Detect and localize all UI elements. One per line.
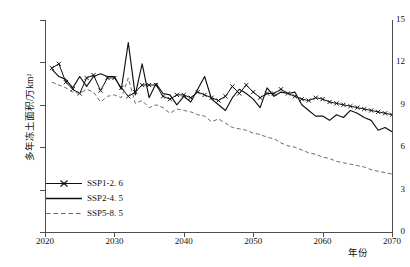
data-point-marker (203, 93, 207, 97)
y-tick-label: 12 (369, 57, 405, 66)
legend-item-ssp5: SSP5-8. 5 (46, 206, 158, 221)
data-point-marker (258, 96, 262, 100)
legend-item-ssp1: SSP1-2. 6 (46, 176, 158, 191)
legend-item-ssp2: SSP2-4. 5 (46, 191, 158, 206)
y-tick-label: 3 (369, 185, 405, 194)
legend-label-ssp1: SSP1-2. 6 (87, 178, 123, 189)
data-point-marker (85, 76, 89, 80)
y-tick-mark (40, 190, 45, 191)
legend-swatch-ssp5 (46, 208, 82, 219)
data-point-marker (279, 87, 283, 91)
data-point-marker (161, 94, 165, 98)
data-point-marker (244, 83, 248, 87)
x-tick-label: 2040 (164, 236, 204, 246)
x-tick-label: 2030 (94, 236, 134, 246)
x-tick-label: 2070 (372, 236, 410, 246)
legend: SSP1-2. 6 SSP2-4. 5 SSP5-8. 5 (46, 176, 158, 221)
data-point-marker (126, 94, 130, 98)
y-tick-label: 15 (369, 15, 405, 24)
data-point-marker (237, 91, 241, 95)
data-point-marker (216, 98, 220, 102)
legend-label-ssp5: SSP5-8. 5 (87, 208, 123, 219)
right-spine (392, 20, 393, 232)
x-axis-line (45, 232, 393, 233)
data-point-marker (57, 62, 61, 66)
x-tick-label: 2050 (233, 236, 273, 246)
y-tick-label: 6 (369, 142, 405, 151)
x-tick-label: 2020 (25, 236, 65, 246)
y-tick-label: 0 (369, 227, 405, 236)
y-tick-mark (40, 20, 45, 21)
y-tick-mark (40, 62, 45, 63)
data-point-marker (98, 89, 102, 93)
data-point-marker (251, 90, 255, 94)
legend-swatch-ssp1 (46, 178, 82, 189)
y-tick-mark (40, 105, 45, 106)
data-point-marker (223, 94, 227, 98)
y-axis-title: 多年冻土面积/万km² (25, 43, 36, 193)
data-point-marker (230, 84, 234, 88)
y-tick-mark (40, 147, 45, 148)
series-ssp5-8-5 (52, 78, 392, 174)
x-axis-title: 年份 (348, 248, 368, 259)
y-tick-label: 9 (369, 100, 405, 109)
series-ssp1-2-6 (50, 62, 392, 117)
legend-swatch-ssp2 (46, 193, 82, 204)
legend-label-ssp2: SSP2-4. 5 (87, 193, 123, 204)
x-tick-label: 2060 (303, 236, 343, 246)
